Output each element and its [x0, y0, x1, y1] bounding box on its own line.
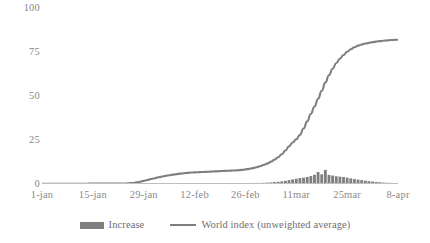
chart-container: 0255075100 1-jan15-jan29-jan12-feb26-feb… [0, 0, 430, 243]
y-axis: 0255075100 [0, 0, 40, 243]
y-tick-label: 75 [6, 47, 40, 57]
legend-label-world-index: World index (unweighted average) [201, 219, 350, 231]
bar [324, 170, 327, 184]
x-axis-line [42, 183, 398, 184]
y-tick-label: 50 [6, 91, 40, 101]
bar-swatch-icon [80, 222, 104, 229]
line-series-world-index [42, 40, 398, 184]
plot-area [42, 8, 398, 184]
x-tick-label: 8-apr [368, 188, 428, 201]
y-tick-label: 100 [6, 3, 40, 13]
legend-item-increase: Increase [80, 219, 145, 231]
plot-svg [42, 8, 398, 184]
legend-item-world-index: World index (unweighted average) [170, 219, 350, 231]
chart-legend: Increase World index (unweighted average… [0, 214, 430, 236]
bar-series-increase [128, 170, 398, 184]
legend-label-increase: Increase [109, 219, 145, 231]
line-swatch-icon [170, 224, 196, 226]
y-tick-label: 25 [6, 135, 40, 145]
x-axis: 1-jan15-jan29-jan12-feb26-feb11mar25mar8… [0, 188, 430, 204]
